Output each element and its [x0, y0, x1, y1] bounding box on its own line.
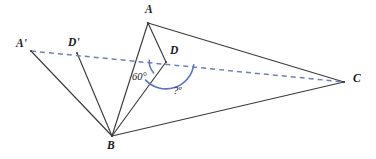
angle-unknown-arc — [146, 65, 194, 89]
segment-BA-prime — [31, 51, 112, 136]
label-point-A: A — [145, 4, 153, 16]
segment-BD-prime — [77, 53, 112, 136]
label-point-A-prime: A' — [16, 38, 27, 50]
vertex-dot-D-prime — [76, 52, 78, 54]
vertex-dot-A-prime — [30, 50, 32, 52]
vertex-dot-D — [165, 61, 167, 63]
segment-A-prime-C-dashed — [31, 51, 344, 82]
vertex-dot-A — [147, 22, 149, 24]
angle-label-60: 60° — [132, 72, 147, 83]
label-point-D: D — [170, 45, 179, 57]
vertex-dot-C — [343, 81, 345, 83]
geometry-canvas — [0, 0, 376, 159]
segment-BC — [112, 82, 344, 136]
vertex-dot-B — [111, 135, 113, 137]
label-point-B: B — [107, 140, 115, 152]
label-point-C: C — [353, 73, 361, 85]
segment-AD — [148, 23, 166, 62]
geometry-figure: A B C D A' D' 60° ?º — [0, 0, 376, 159]
angle-label-unknown: ?º — [173, 86, 182, 97]
label-point-D-prime: D' — [68, 37, 80, 49]
